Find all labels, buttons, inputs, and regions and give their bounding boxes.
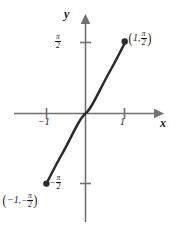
- fraction-pi-over-two: π 2: [141, 30, 147, 46]
- x-tick-label-pos-one: 1: [120, 117, 125, 127]
- x-axis-label: x: [160, 117, 166, 129]
- fraction-denominator: 2: [27, 201, 33, 209]
- fraction-denominator: 2: [56, 183, 62, 191]
- point-label-lower: ( −1 , − π 2 ): [2, 192, 38, 208]
- x-tick-label-neg-one: −1: [38, 117, 50, 127]
- endpoint-dot-upper: [122, 38, 128, 44]
- fraction-pi-over-two: π 2: [55, 33, 61, 49]
- fraction-pi-over-two: π 2: [27, 192, 33, 208]
- close-paren: ): [33, 193, 37, 208]
- point-label-upper: ( 1 , π 2 ): [128, 30, 152, 46]
- minus-sign: −: [22, 196, 27, 205]
- y-axis-label: y: [64, 8, 69, 20]
- endpoint-dot-lower: [43, 180, 49, 186]
- y-tick-label-pi-over-two: π 2: [55, 33, 61, 49]
- fraction-pi-over-two: π 2: [56, 174, 62, 190]
- fraction-denominator: 2: [141, 39, 147, 47]
- open-paren: (: [3, 193, 7, 208]
- close-paren: ): [147, 31, 151, 46]
- open-paren: (: [129, 31, 133, 46]
- fraction-denominator: 2: [55, 42, 61, 50]
- y-tick-label-neg-pi-over-two: − π 2: [50, 174, 61, 190]
- minus-sign: −: [50, 178, 55, 187]
- graph-figure: y x −1 1 π 2 − π 2 ( 1 , π 2 ) ( −1 , −: [0, 0, 176, 228]
- point-x-value: −1: [7, 195, 19, 205]
